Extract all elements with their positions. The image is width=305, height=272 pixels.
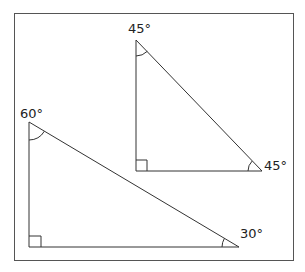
diagram-frame (15, 14, 294, 261)
angle-label-45-top: 45° (128, 21, 151, 36)
right-angle-marker-icon (29, 236, 41, 247)
diagram-canvas: 45° 45° 60° 30° (0, 0, 305, 272)
angle-arc-icon (29, 131, 44, 140)
angle-label-45-right: 45° (264, 158, 287, 173)
right-angle-marker-icon (136, 160, 147, 171)
angle-arc-icon (248, 161, 252, 171)
angle-label-60-top: 60° (20, 106, 43, 121)
triangle-45-45-90: 45° 45° (128, 21, 287, 173)
angle-label-30-right: 30° (240, 226, 263, 241)
triangle-30-60-90: 60° 30° (20, 106, 263, 247)
angle-arc-icon (222, 238, 224, 247)
triangle-30-60-outline (29, 122, 239, 247)
triangle-45-outline (136, 40, 262, 171)
angle-arc-icon (136, 51, 147, 56)
